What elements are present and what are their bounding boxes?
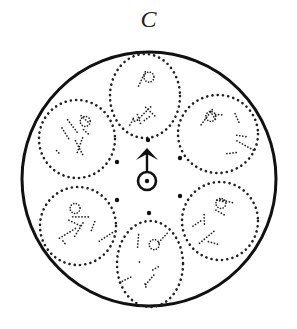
panel-upper-right <box>178 95 258 173</box>
rosette-diagram <box>0 0 297 329</box>
marker-dot <box>146 138 150 142</box>
marker-dot <box>147 211 151 215</box>
marker-dot <box>178 156 182 160</box>
marker-dot <box>178 194 182 198</box>
standing-figure-icon <box>129 71 154 126</box>
panel-bottom <box>117 221 183 307</box>
marker-dot <box>115 160 119 164</box>
crouching-figure-icon <box>59 203 114 244</box>
panel-lower-right <box>182 182 258 260</box>
reclining-figure-icon <box>57 116 91 156</box>
marker-dot <box>115 198 119 202</box>
kneeling-figure-icon <box>200 109 254 154</box>
panel-lower-left <box>40 187 116 265</box>
center-dot <box>145 179 149 183</box>
fallen-figure-icon <box>192 198 234 244</box>
standing-figure-icon <box>118 232 168 287</box>
panel-top <box>110 54 180 138</box>
panel-upper-left <box>39 100 115 178</box>
outer-circle <box>22 52 276 306</box>
